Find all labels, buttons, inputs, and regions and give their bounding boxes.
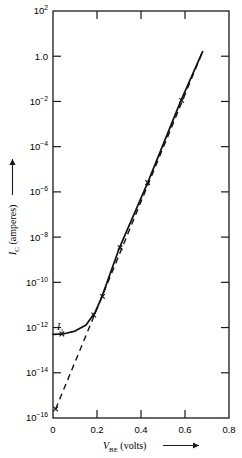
x-tick-label: 0.6 xyxy=(178,424,191,435)
figure-container: 1021.010−210−410−610−810−1010−1210−1410−… xyxy=(0,0,242,458)
x-tick-label: 0.8 xyxy=(222,424,235,435)
x-tick-label: 0 xyxy=(50,424,55,435)
chart-background xyxy=(0,0,242,458)
y-axis-units-text: (amperes) xyxy=(7,205,19,245)
y-tick-label: 1.0 xyxy=(35,51,48,62)
transistor-ic-vbe-log-chart: 1021.010−210−410−610−810−1010−1210−1410−… xyxy=(0,0,242,458)
x-axis-subscript: BE xyxy=(109,446,118,453)
x-axis-units: (volts) xyxy=(120,440,146,452)
i1-subscript: 1 xyxy=(60,327,63,334)
x-tick-label: 0.4 xyxy=(134,424,147,435)
x-tick-label: 0.2 xyxy=(90,424,103,435)
